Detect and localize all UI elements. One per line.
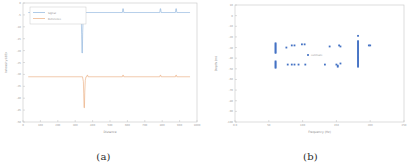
scatter-marker	[285, 47, 287, 49]
y-tick-label: -60	[229, 78, 234, 81]
panel-b: 0.050100150200250-100-90-80-70-60-50-40-…	[207, 0, 414, 163]
scatter-marker	[357, 66, 359, 68]
x-tick-label: 1000	[194, 124, 201, 127]
y-tick-label: -5	[18, 14, 21, 17]
legend-label-1: Reference	[48, 18, 61, 21]
scatter-marker	[301, 43, 303, 45]
scatter-marker	[287, 64, 289, 66]
scatter-marker	[340, 46, 342, 48]
x-tick-label: 300	[73, 124, 78, 127]
y-tick-label: -70	[229, 89, 234, 92]
x-tick-label: 600	[125, 124, 130, 127]
y-tick-label: -15	[17, 38, 22, 41]
y-tick-label: -90	[229, 110, 234, 113]
x-tick-label: 400	[90, 124, 95, 127]
plot-frame	[235, 5, 404, 122]
x-tick-label: 100	[38, 124, 43, 127]
y-axis-label: Depth (m)	[214, 56, 218, 71]
scatter-marker	[369, 45, 371, 47]
x-tick-label: 200	[368, 124, 373, 127]
y-tick-label: -80	[229, 100, 234, 103]
panel-a-svg: 01002003004005006007008009001000-50-45-4…	[0, 0, 207, 140]
x-tick-label: 50	[267, 124, 271, 127]
figure-container: 01002003004005006007008009001000-50-45-4…	[0, 0, 414, 163]
y-tick-label: -30	[229, 47, 234, 50]
panel-b-plot: 0.050100150200250-100-90-80-70-60-50-40-…	[207, 0, 414, 140]
x-axis-label: Distance	[103, 130, 116, 134]
y-tick-label: -100	[227, 121, 233, 124]
panel-a-caption: (a)	[0, 151, 207, 162]
panel-b-caption: (b)	[207, 151, 414, 162]
scatter-marker	[304, 43, 306, 45]
x-tick-label: 0	[22, 124, 24, 127]
scatter-marker	[357, 35, 359, 37]
x-tick-label: 700	[142, 124, 147, 127]
y-tick-label: -45	[17, 109, 22, 112]
x-tick-label: 0.0	[233, 124, 237, 127]
scatter-marker	[337, 66, 339, 68]
x-tick-label: 250	[402, 124, 407, 127]
scatter-marker	[298, 64, 300, 66]
y-tick-label: -50	[17, 121, 22, 124]
y-tick-label: 0	[231, 15, 233, 18]
scatter-marker	[304, 64, 306, 66]
scatter-marker	[329, 46, 331, 48]
x-tick-label: 150	[334, 124, 339, 127]
y-tick-label: -40	[229, 57, 234, 60]
y-tick-label: -30	[17, 73, 22, 76]
scatter-marker	[340, 63, 342, 65]
y-axis-label: Intensity (dB)	[4, 52, 8, 72]
annotation-label: estimate	[311, 54, 323, 57]
y-tick-label: -25	[17, 62, 22, 65]
x-tick-label: 900	[177, 124, 182, 127]
scatter-marker	[294, 45, 296, 47]
x-tick-label: 800	[160, 124, 165, 127]
scatter-marker	[275, 52, 277, 54]
y-tick-label: 0	[19, 2, 21, 5]
panel-b-svg: 0.050100150200250-100-90-80-70-60-50-40-…	[207, 0, 414, 140]
y-tick-label: -10	[17, 26, 22, 29]
panel-a: 01002003004005006007008009001000-50-45-4…	[0, 0, 207, 163]
x-axis-label: Frequency (Hz)	[308, 130, 331, 134]
scatter-marker	[291, 64, 293, 66]
y-tick-label: -40	[17, 97, 22, 100]
panel-a-plot: 01002003004005006007008009001000-50-45-4…	[0, 0, 207, 140]
x-tick-label: 100	[300, 124, 305, 127]
legend-box	[30, 7, 86, 24]
y-tick-label: 10	[230, 4, 234, 7]
scatter-marker	[291, 45, 293, 47]
y-tick-label: -20	[17, 50, 22, 53]
scatter-marker	[324, 64, 326, 66]
legend-label-0: Signal	[48, 12, 56, 15]
y-tick-label: -20	[229, 36, 234, 39]
scatter-marker	[294, 64, 296, 66]
scatter-marker	[275, 67, 277, 69]
y-tick-label: -35	[17, 85, 22, 88]
x-tick-label: 500	[108, 124, 113, 127]
x-tick-label: 200	[55, 124, 60, 127]
y-tick-label: -50	[229, 68, 234, 71]
annotation-marker	[307, 54, 309, 56]
y-tick-label: -10	[229, 25, 234, 28]
